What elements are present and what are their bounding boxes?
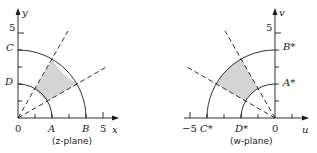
y-axis-label: y xyxy=(22,8,28,18)
w-plane xyxy=(184,8,309,121)
x-tick-5-label: 5 xyxy=(100,124,106,134)
w-origin-label: 0 xyxy=(272,124,278,134)
point-c-label: C xyxy=(6,43,14,53)
v-axis-label: v xyxy=(279,8,285,18)
x-arrow-icon xyxy=(112,116,119,121)
u-tick-neg5-label: −5 xyxy=(182,124,197,134)
v-arrow-icon xyxy=(273,8,278,15)
point-b-label: B xyxy=(82,124,89,134)
point-d-label: D xyxy=(5,77,13,87)
z-shaded-region xyxy=(35,59,77,101)
z-plane-caption: (z-plane) xyxy=(52,136,92,146)
w-plane-caption: (w-plane) xyxy=(230,136,273,146)
point-a-star-label: A* xyxy=(283,78,295,88)
y-arrow-icon xyxy=(16,8,21,15)
u-axis-label: u xyxy=(302,125,308,135)
point-c-star-label: C* xyxy=(200,124,213,134)
point-d-star-label: D* xyxy=(235,124,248,134)
point-a-label: A xyxy=(48,124,55,134)
w-shaded-region xyxy=(216,59,258,101)
v-tick-5-label: 5 xyxy=(266,23,272,33)
u-arrow-icon xyxy=(302,116,309,121)
x-axis-label: x xyxy=(112,125,118,135)
z-origin-label: 0 xyxy=(15,124,21,134)
z-plane xyxy=(16,8,120,121)
point-b-star-label: B* xyxy=(283,42,295,52)
y-tick-5-label: 5 xyxy=(9,23,15,33)
